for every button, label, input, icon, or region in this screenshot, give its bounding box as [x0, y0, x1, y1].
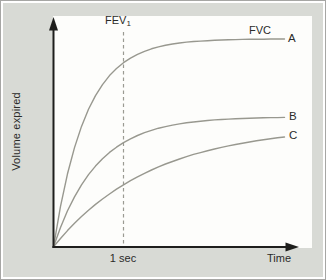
- curve-a-label: A: [288, 32, 296, 45]
- fvc-label: FVC: [249, 24, 271, 37]
- one-sec-tick-label: 1 sec: [101, 252, 145, 265]
- fev1-label-subscript: 1: [126, 19, 130, 28]
- fev1-label-base: FEV: [105, 14, 126, 26]
- curve-c: [54, 137, 285, 247]
- x-axis-arrow-icon: [286, 243, 300, 252]
- curve-c-label: C: [289, 129, 297, 142]
- chart-canvas: [1, 1, 326, 280]
- fev1-label: FEV1: [105, 14, 131, 30]
- curve-b: [54, 117, 285, 246]
- y-axis-label: Volume expired: [10, 87, 23, 177]
- y-axis-arrow-icon: [49, 17, 58, 31]
- curve-a: [54, 39, 285, 247]
- x-axis-label: Time: [267, 252, 291, 265]
- curve-b-label: B: [289, 110, 297, 123]
- spirometry-figure: Volume expired FEV1 FVC A B C 1 sec Time: [0, 0, 326, 280]
